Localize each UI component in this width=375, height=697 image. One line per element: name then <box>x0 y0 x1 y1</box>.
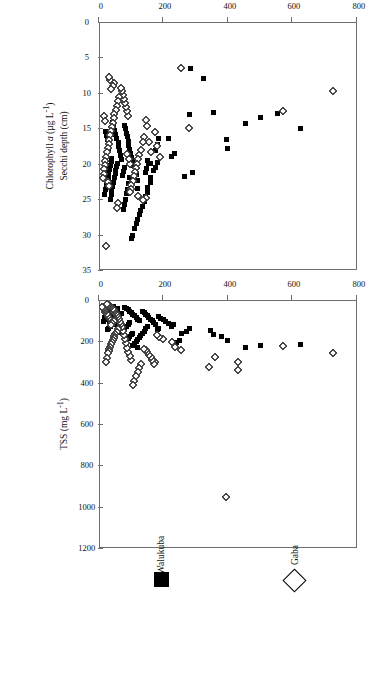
data-point-gaba <box>329 349 337 357</box>
data-point-walukuba <box>124 131 129 136</box>
x-tick-label: 25 <box>77 195 97 204</box>
legend-label-walukuba: Walukuba <box>156 530 166 580</box>
x-tick <box>98 341 103 342</box>
data-point-gaba <box>185 124 193 132</box>
x-tick <box>98 93 103 94</box>
two-panel-scatter-figure: 051015202530350200400600800Secchi depth … <box>0 0 375 697</box>
data-point-gaba <box>233 366 241 374</box>
data-point-walukuba <box>102 192 107 197</box>
y-tick-label: 200 <box>155 2 175 11</box>
y-tick <box>227 295 228 300</box>
data-point-walukuba <box>224 137 229 142</box>
panel-tss <box>99 300 357 548</box>
x-tick <box>98 548 103 549</box>
figure-page: 051015202530350200400600800Secchi depth … <box>0 0 375 697</box>
panel-secchi <box>99 22 357 270</box>
x-tick-label: 35 <box>77 266 97 275</box>
data-point-walukuba <box>123 197 128 202</box>
y-tick-label: 400 <box>220 280 240 289</box>
x-axis-title: TSS (mg L-1) <box>56 364 69 484</box>
data-point-walukuba <box>132 226 137 231</box>
data-point-gaba <box>329 87 337 95</box>
x-tick-label: 20 <box>77 159 97 168</box>
data-point-walukuba <box>298 126 303 131</box>
data-point-walukuba <box>182 174 187 179</box>
data-point-gaba <box>204 362 212 370</box>
x-tick-label: 0 <box>77 296 97 305</box>
y-tick <box>163 17 164 22</box>
y-tick <box>356 295 357 300</box>
data-point-walukuba <box>135 186 140 191</box>
y-tick-label: 0 <box>91 2 111 11</box>
x-tick <box>98 300 103 301</box>
data-point-walukuba <box>226 338 231 343</box>
y-axis-title: Chlorophyll a (µg L-1) <box>42 76 55 216</box>
x-tick-label: 10 <box>77 89 97 98</box>
data-point-walukuba <box>179 331 184 336</box>
y-tick <box>292 295 293 300</box>
x-tick <box>98 199 103 200</box>
x-tick-label: 1000 <box>77 502 97 511</box>
data-point-walukuba <box>145 158 150 163</box>
data-point-walukuba <box>117 148 122 153</box>
data-point-gaba <box>177 64 185 72</box>
y-tick <box>356 17 357 22</box>
data-point-walukuba <box>226 146 231 151</box>
x-tick-label: 200 <box>77 337 97 346</box>
x-tick <box>98 128 103 129</box>
data-point-walukuba <box>298 342 303 347</box>
x-tick-label: 5 <box>77 53 97 62</box>
data-point-walukuba <box>258 115 263 120</box>
data-point-walukuba <box>126 139 131 144</box>
y-tick <box>98 17 99 22</box>
data-point-walukuba <box>156 314 161 319</box>
legend-label-gaba: Gaba <box>290 530 300 580</box>
y-tick-label: 400 <box>220 2 240 11</box>
data-point-walukuba <box>190 170 195 175</box>
x-tick <box>98 465 103 466</box>
data-point-gaba <box>102 242 110 250</box>
y-tick-label: 600 <box>284 280 304 289</box>
y-tick <box>98 295 99 300</box>
x-tick <box>98 235 103 236</box>
data-point-walukuba <box>169 154 174 159</box>
data-point-walukuba <box>187 112 192 117</box>
x-tick <box>98 270 103 271</box>
data-point-walukuba <box>258 343 263 348</box>
y-tick-label: 200 <box>155 280 175 289</box>
data-point-walukuba <box>120 173 125 178</box>
x-tick <box>98 164 103 165</box>
data-point-walukuba <box>184 329 189 334</box>
y-tick <box>292 17 293 22</box>
data-point-walukuba <box>140 309 145 314</box>
x-tick <box>98 424 103 425</box>
x-tick-label: 600 <box>77 420 97 429</box>
data-point-walukuba <box>188 66 193 71</box>
data-point-walukuba <box>208 328 213 333</box>
y-tick-label: 0 <box>91 280 111 289</box>
x-tick <box>98 22 103 23</box>
data-point-walukuba <box>122 305 127 310</box>
data-point-walukuba <box>126 143 131 148</box>
data-point-walukuba <box>117 144 122 149</box>
data-point-walukuba <box>166 136 171 141</box>
data-point-walukuba <box>108 197 113 202</box>
data-point-walukuba <box>243 345 248 350</box>
data-point-gaba <box>222 493 230 501</box>
data-point-walukuba <box>151 168 156 173</box>
x-tick-label: 800 <box>77 461 97 470</box>
x-tick-label: 15 <box>77 124 97 133</box>
data-point-gaba <box>279 342 287 350</box>
y-tick <box>227 17 228 22</box>
x-tick-label: 1200 <box>77 544 97 553</box>
y-tick-label: 800 <box>349 280 369 289</box>
data-point-walukuba <box>243 121 248 126</box>
x-tick-label: 400 <box>77 378 97 387</box>
data-point-walukuba <box>156 136 161 141</box>
data-point-walukuba <box>219 334 224 339</box>
x-tick <box>98 57 103 58</box>
plot-area <box>99 22 357 270</box>
data-point-walukuba <box>114 136 119 141</box>
y-tick-label: 800 <box>349 2 369 11</box>
y-tick <box>163 295 164 300</box>
